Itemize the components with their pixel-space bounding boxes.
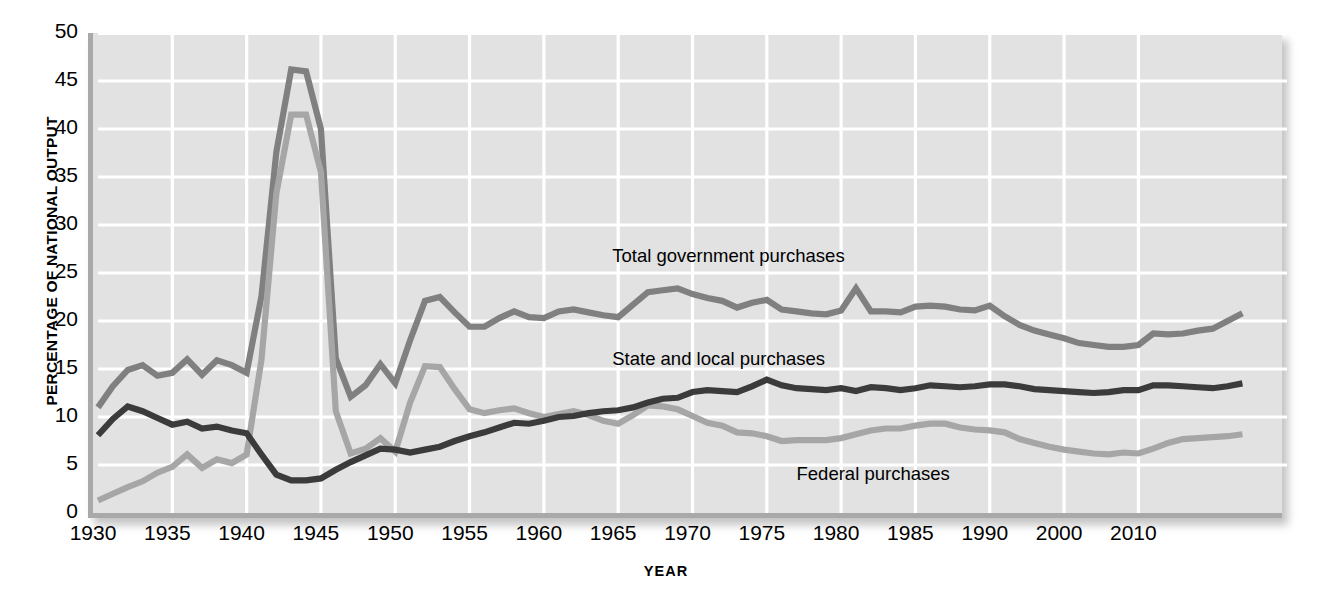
chart-canvas: [93, 33, 1287, 518]
annotation-total-government-purchases: Total government purchases: [612, 245, 844, 267]
gridlines: [98, 33, 1287, 513]
y-tick-50: 50: [18, 19, 78, 43]
x-tick-2010: 2010: [1073, 521, 1193, 545]
y-tick-30: 30: [18, 211, 78, 235]
series-lines: [98, 69, 1242, 500]
y-tick-40: 40: [18, 115, 78, 139]
chart-figure: PERCENTAGE OF NATIONAL OUTPUT 0510152025…: [0, 0, 1332, 606]
plot-area-wrapper: Total government purchasesState and loca…: [88, 33, 1282, 518]
y-tick-20: 20: [18, 307, 78, 331]
y-tick-25: 25: [18, 259, 78, 283]
y-tick-10: 10: [18, 403, 78, 427]
y-tick-45: 45: [18, 67, 78, 91]
y-tick-0: 0: [18, 499, 78, 523]
x-axis-title: YEAR: [0, 563, 1332, 579]
plot-area: Total government purchasesState and loca…: [88, 33, 1282, 518]
series-line-federal-purchases: [98, 115, 1242, 501]
annotation-federal-purchases: Federal purchases: [797, 463, 950, 485]
y-tick-35: 35: [18, 163, 78, 187]
annotation-state-and-local-purchases: State and local purchases: [612, 348, 825, 370]
y-tick-15: 15: [18, 355, 78, 379]
y-tick-5: 5: [18, 451, 78, 475]
